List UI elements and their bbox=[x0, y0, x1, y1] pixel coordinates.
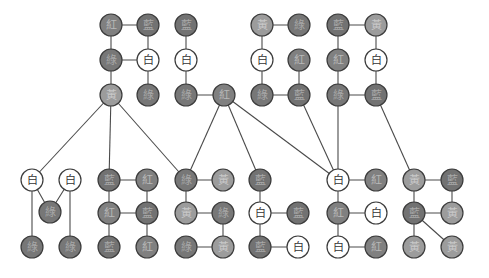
node-yellow-j6: 黃 bbox=[441, 236, 463, 258]
node-white-i5: 白 bbox=[327, 236, 349, 258]
node-label: 藍 bbox=[104, 241, 115, 254]
node-yellow-d2: 黃 bbox=[365, 14, 387, 36]
node-label: 紅 bbox=[333, 54, 344, 67]
node-yellow-a5: 黃 bbox=[100, 84, 122, 106]
node-white-d4: 白 bbox=[365, 49, 387, 71]
node-blue-c6: 藍 bbox=[288, 84, 310, 106]
node-label: 藍 bbox=[181, 19, 192, 32]
node-label: 白 bbox=[257, 53, 268, 67]
node-white-a4: 白 bbox=[137, 49, 159, 71]
node-label: 藍 bbox=[293, 207, 304, 220]
node-blue-b1: 藍 bbox=[175, 14, 197, 36]
node-label: 黃 bbox=[447, 241, 458, 254]
node-red-f6: 紅 bbox=[136, 236, 158, 258]
node-yellow-g6: 黃 bbox=[212, 236, 234, 258]
node-label: 黃 bbox=[106, 89, 117, 102]
node-label: 紅 bbox=[371, 241, 382, 254]
node-label: 藍 bbox=[143, 19, 154, 32]
node-label: 綠 bbox=[106, 54, 117, 67]
edge-a5-f1 bbox=[109, 95, 111, 180]
node-label: 紅 bbox=[294, 54, 305, 67]
node-green-e4: 綠 bbox=[21, 236, 43, 258]
node-white-h2: 白 bbox=[249, 202, 271, 224]
node-blue-h4: 藍 bbox=[249, 236, 271, 258]
node-label: 綠 bbox=[181, 174, 192, 187]
node-blue-d1: 藍 bbox=[327, 14, 349, 36]
node-green-c5: 綠 bbox=[251, 84, 273, 106]
node-green-e3: 綠 bbox=[39, 201, 61, 223]
node-green-g1: 綠 bbox=[175, 169, 197, 191]
node-label: 白 bbox=[371, 206, 382, 220]
node-green-e5: 綠 bbox=[59, 236, 81, 258]
node-label: 綠 bbox=[45, 206, 56, 219]
node-label: 藍 bbox=[255, 241, 266, 254]
node-label: 白 bbox=[65, 173, 76, 187]
node-red-d3: 紅 bbox=[327, 49, 349, 71]
node-label: 綠 bbox=[218, 207, 229, 220]
node-blue-j3: 藍 bbox=[403, 202, 425, 224]
node-yellow-j1: 黃 bbox=[403, 169, 425, 191]
node-red-b4: 紅 bbox=[213, 84, 235, 106]
node-white-e1: 白 bbox=[21, 169, 43, 191]
node-label: 白 bbox=[371, 53, 382, 67]
node-label: 綠 bbox=[181, 241, 192, 254]
node-yellow-g2: 黃 bbox=[212, 169, 234, 191]
node-label: 紅 bbox=[142, 174, 153, 187]
node-label: 藍 bbox=[409, 207, 420, 220]
node-label: 綠 bbox=[257, 89, 268, 102]
node-label: 白 bbox=[293, 240, 304, 254]
node-red-c4: 紅 bbox=[288, 49, 310, 71]
node-label: 紅 bbox=[142, 241, 153, 254]
node-white-h5: 白 bbox=[287, 236, 309, 258]
node-blue-h3: 藍 bbox=[287, 202, 309, 224]
node-label: 綠 bbox=[27, 241, 38, 254]
node-blue-a2: 藍 bbox=[137, 14, 159, 36]
edge-b4-g1 bbox=[186, 95, 224, 180]
node-green-a6: 綠 bbox=[137, 84, 159, 106]
node-label: 紅 bbox=[371, 174, 382, 187]
node-label: 綠 bbox=[181, 89, 192, 102]
node-label: 白 bbox=[27, 173, 38, 187]
node-label: 黃 bbox=[371, 19, 382, 32]
node-green-b3: 綠 bbox=[175, 84, 197, 106]
node-label: 黃 bbox=[218, 174, 229, 187]
edge-a5-e1 bbox=[32, 95, 111, 180]
node-blue-f4: 藍 bbox=[136, 202, 158, 224]
node-white-c3: 白 bbox=[251, 49, 273, 71]
edge-b4-i1 bbox=[224, 95, 338, 180]
node-red-a1: 紅 bbox=[100, 14, 122, 36]
node-label: 綠 bbox=[294, 19, 305, 32]
node-label: 黃 bbox=[181, 207, 192, 220]
graph-diagram: 紅藍綠白黃綠藍白綠紅黃綠白紅綠藍藍黃紅白綠藍白白綠綠綠藍紅紅藍藍紅綠黃黃綠綠黃藍… bbox=[0, 0, 489, 278]
node-label: 紅 bbox=[106, 19, 117, 32]
node-green-d5: 綠 bbox=[327, 84, 349, 106]
node-label: 黃 bbox=[409, 241, 420, 254]
node-red-f2: 紅 bbox=[136, 169, 158, 191]
node-label: 黃 bbox=[218, 241, 229, 254]
node-blue-h1: 藍 bbox=[249, 169, 271, 191]
node-label: 白 bbox=[255, 206, 266, 220]
node-label: 白 bbox=[333, 240, 344, 254]
node-label: 綠 bbox=[143, 89, 154, 102]
nodes-layer: 紅藍綠白黃綠藍白綠紅黃綠白紅綠藍藍黃紅白綠藍白白綠綠綠藍紅紅藍藍紅綠黃黃綠綠黃藍… bbox=[21, 14, 463, 258]
edge-a5-g1 bbox=[111, 95, 186, 180]
node-white-e2: 白 bbox=[59, 169, 81, 191]
node-label: 藍 bbox=[104, 174, 115, 187]
node-white-i1: 白 bbox=[327, 169, 349, 191]
node-yellow-c1: 黃 bbox=[251, 14, 273, 36]
node-red-i3: 紅 bbox=[327, 202, 349, 224]
node-label: 綠 bbox=[65, 241, 76, 254]
node-label: 藍 bbox=[255, 174, 266, 187]
node-label: 黃 bbox=[409, 174, 420, 187]
node-white-b2: 白 bbox=[175, 49, 197, 71]
node-label: 白 bbox=[333, 173, 344, 187]
node-blue-f1: 藍 bbox=[98, 169, 120, 191]
node-green-g4: 綠 bbox=[212, 202, 234, 224]
node-blue-j2: 藍 bbox=[441, 169, 463, 191]
node-label: 白 bbox=[143, 53, 154, 67]
node-label: 綠 bbox=[333, 89, 344, 102]
node-green-g5: 綠 bbox=[175, 236, 197, 258]
node-green-c2: 綠 bbox=[288, 14, 310, 36]
node-label: 紅 bbox=[104, 207, 115, 220]
node-red-i2: 紅 bbox=[365, 169, 387, 191]
